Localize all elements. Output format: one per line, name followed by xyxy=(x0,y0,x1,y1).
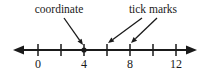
axis-right-arrowhead xyxy=(186,45,197,54)
tick-labels-group: 04812 xyxy=(35,57,182,71)
coordinate-label: coordinate xyxy=(35,3,84,15)
coordinate-point xyxy=(81,47,86,52)
axis-tick-label: 12 xyxy=(170,57,182,71)
axis-tick-label: 4 xyxy=(81,57,87,71)
annotation-arrowhead xyxy=(78,39,83,45)
annotation-leaders-group xyxy=(64,18,157,45)
number-line-svg: 04812 coordinate tick marks xyxy=(0,0,208,72)
tick-marks-label: tick marks xyxy=(129,3,178,15)
axis-left-arrowhead xyxy=(13,45,24,54)
annotation-leader-line xyxy=(64,18,80,40)
axis-group xyxy=(13,45,197,54)
axis-tick-label: 8 xyxy=(127,57,133,71)
number-line-figure: 04812 coordinate tick marks xyxy=(0,0,208,72)
plotted-points-group xyxy=(81,47,86,52)
axis-tick-label: 0 xyxy=(35,57,41,71)
